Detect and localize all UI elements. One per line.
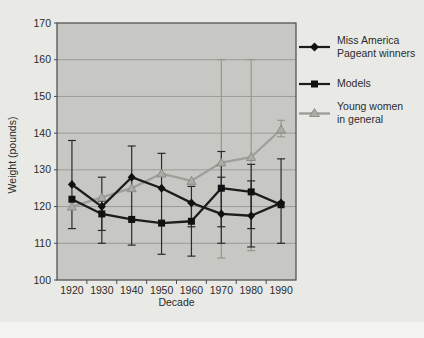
square-marker-icon — [68, 196, 75, 203]
bottom-strip — [0, 322, 424, 338]
legend-label-models: Models — [337, 77, 371, 90]
y-tick-label: 170 — [33, 17, 51, 29]
x-tick-label: 1990 — [269, 284, 293, 296]
page-background: { "figure": { "background": "#e9eae6", "… — [0, 0, 424, 338]
legend-item-miss-america: Miss America Pageant winners — [298, 34, 415, 60]
y-tick-label: 100 — [33, 274, 51, 286]
legend-label-young-women: Young women in general — [337, 100, 403, 126]
x-tick-label: 1940 — [120, 284, 144, 296]
legend-item-models: Models — [298, 77, 371, 90]
legend-label-miss-america: Miss America Pageant winners — [337, 34, 415, 60]
chart-figure: 1001101201301401501601701920193019401950… — [0, 0, 424, 338]
y-axis-title: Weight (pounds) — [0, 147, 92, 163]
square-marker-icon — [128, 216, 135, 223]
y-tick-label: 140 — [33, 127, 51, 139]
y-tick-label: 110 — [34, 237, 51, 249]
diamond-marker-icon — [298, 41, 331, 53]
plot-area — [57, 23, 296, 280]
triangle-marker-icon — [298, 107, 331, 119]
y-tick-label: 120 — [33, 200, 51, 212]
square-marker-icon — [218, 185, 225, 192]
x-tick-label: 1980 — [240, 284, 264, 296]
y-tick-label: 150 — [33, 90, 51, 102]
x-tick-label: 1930 — [90, 284, 114, 296]
square-marker-icon — [248, 188, 255, 195]
x-axis-title: Decade — [57, 296, 296, 308]
x-tick-label: 1970 — [210, 284, 234, 296]
square-marker-icon — [98, 210, 105, 217]
square-marker-icon — [298, 78, 331, 90]
x-tick-label: 1960 — [180, 284, 204, 296]
square-marker-icon — [158, 220, 165, 227]
y-tick-label: 160 — [33, 53, 51, 65]
x-tick-label: 1920 — [60, 284, 84, 296]
x-tick-label: 1950 — [150, 284, 174, 296]
square-marker-icon — [278, 201, 285, 208]
square-marker-icon — [188, 218, 195, 225]
legend-item-young-women: Young women in general — [298, 100, 403, 126]
y-tick-label: 130 — [33, 163, 51, 175]
